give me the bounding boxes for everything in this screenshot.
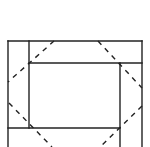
dashed-square xyxy=(8,41,142,147)
solid-lines xyxy=(8,41,142,147)
pinwheel-frame-diagram xyxy=(0,0,150,147)
dash-top-left-line xyxy=(8,41,54,82)
dash-bottom-left-line xyxy=(9,103,52,147)
dash-bottom-right-line xyxy=(100,106,142,147)
